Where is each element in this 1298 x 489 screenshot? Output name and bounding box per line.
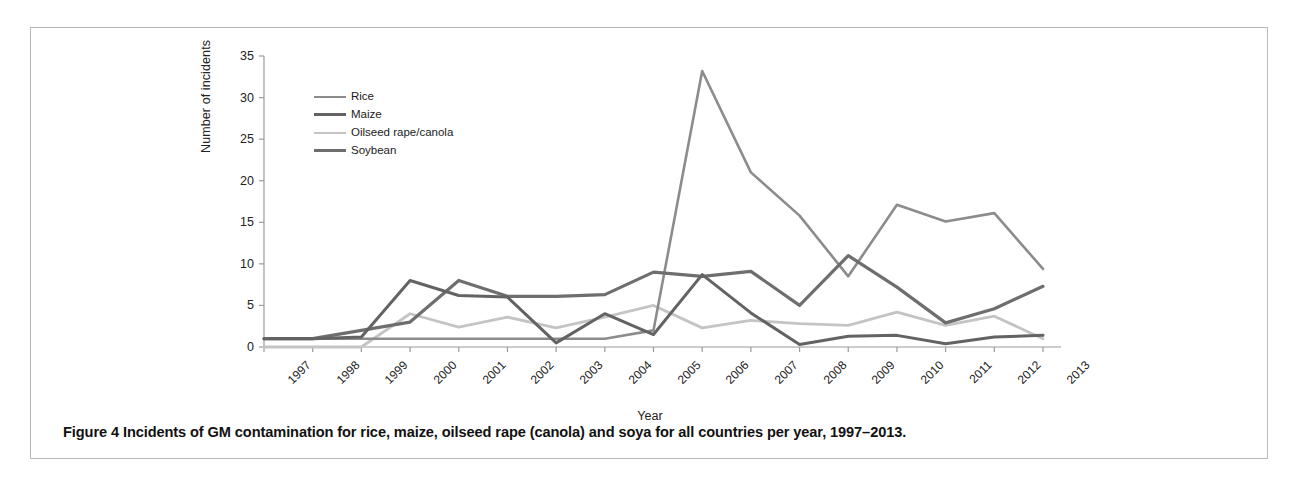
legend-label: Soybean [351, 145, 396, 157]
y-axis-title: Number of incidents [199, 0, 213, 153]
x-axis-title: Year [31, 409, 1269, 423]
y-tick-label-10: 10 [218, 257, 254, 271]
legend-item-rice: Rice [314, 88, 453, 105]
y-tick-label-5: 5 [218, 298, 254, 312]
y-tick-label-15: 15 [218, 215, 254, 229]
chart-plot-area: 35302520151050 1997199819992000200120022… [31, 28, 1269, 460]
line-chart [31, 28, 1269, 460]
legend-label: Rice [351, 91, 374, 103]
legend-swatch-icon [314, 96, 346, 98]
legend-item-soybean: Soybean [314, 142, 453, 159]
legend-label: Oilseed rape/canola [351, 127, 453, 139]
legend-swatch-icon [314, 132, 346, 134]
legend-swatch-icon [314, 149, 346, 152]
y-tick-label-25: 25 [218, 132, 254, 146]
legend-swatch-icon [314, 113, 346, 116]
figure-frame: 35302520151050 1997199819992000200120022… [30, 27, 1268, 459]
y-tick-label-30: 30 [218, 91, 254, 105]
figure-container: 35302520151050 1997199819992000200120022… [0, 0, 1298, 489]
y-tick-label-35: 35 [218, 49, 254, 63]
chart-legend: RiceMaizeOilseed rape/canolaSoybean [314, 88, 453, 160]
figure-caption: Figure 4 Incidents of GM contamination f… [63, 424, 1243, 440]
y-tick-label-0: 0 [218, 340, 254, 354]
y-tick-label-20: 20 [218, 174, 254, 188]
figure-caption-text: Incidents of GM contamination for rice, … [123, 424, 906, 440]
figure-caption-label: Figure 4 [63, 424, 119, 440]
legend-item-maize: Maize [314, 106, 453, 123]
legend-item-oilseed-rape-canola: Oilseed rape/canola [314, 124, 453, 141]
legend-label: Maize [351, 109, 382, 121]
